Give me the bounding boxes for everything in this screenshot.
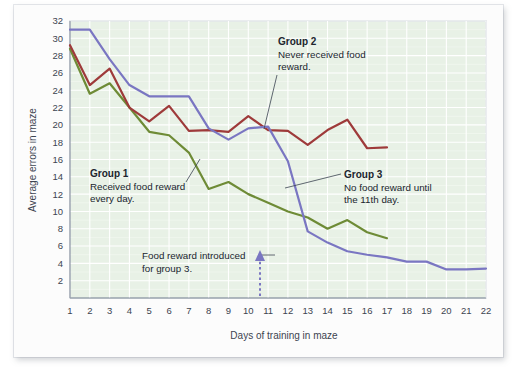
y-axis-tick-labels: 2468101214161820222426283032 <box>52 15 63 286</box>
y-tick-label: 22 <box>52 102 63 113</box>
x-axis-tick-labels: 12345678910111213141516171819202122 <box>67 305 491 316</box>
y-tick-label: 10 <box>52 206 63 217</box>
annotation-group-2-line-2: reward. <box>278 61 311 72</box>
x-axis-title: Days of training in maze <box>230 330 338 341</box>
annotation-group-2-title: Group 2 <box>278 36 317 47</box>
annotation-group-3-title: Group 3 <box>344 169 383 180</box>
x-tick-label: 22 <box>481 305 492 316</box>
y-tick-label: 24 <box>52 85 63 96</box>
y-tick-label: 28 <box>52 50 63 61</box>
y-tick-label: 16 <box>52 154 63 165</box>
chart-container: 2468101214161820222426283032 12345678910… <box>14 5 503 357</box>
y-tick-label: 30 <box>52 33 63 44</box>
y-tick-label: 8 <box>58 223 63 234</box>
y-tick-label: 18 <box>52 137 63 148</box>
y-axis-title: Average errors in maze <box>27 108 38 212</box>
x-tick-label: 2 <box>87 305 92 316</box>
x-tick-label: 1 <box>67 305 72 316</box>
y-tick-label: 14 <box>52 171 63 182</box>
x-tick-label: 19 <box>421 305 432 316</box>
x-tick-label: 20 <box>441 305 452 316</box>
y-tick-label: 12 <box>52 189 63 200</box>
y-tick-label: 20 <box>52 119 63 130</box>
annotation-group-1-line-2: every day. <box>90 193 134 204</box>
annotation-group-1-title: Group 1 <box>90 168 129 179</box>
x-tick-label: 13 <box>302 305 313 316</box>
x-tick-label: 7 <box>186 305 191 316</box>
x-tick-label: 18 <box>401 305 412 316</box>
annotation-group-2-line-1: Never received food <box>278 49 366 60</box>
x-tick-label: 11 <box>263 305 273 316</box>
annotation-group-3-line-2: the 11th day. <box>344 194 399 205</box>
x-tick-label: 10 <box>243 305 254 316</box>
y-tick-label: 2 <box>58 275 63 286</box>
x-tick-label: 4 <box>127 305 132 316</box>
x-tick-label: 21 <box>461 305 472 316</box>
annotation-group-1-line-1: Received food reward <box>90 181 185 192</box>
x-tick-label: 6 <box>166 305 171 316</box>
x-tick-label: 16 <box>362 305 373 316</box>
annotation-food-reward-line-1: Food reward introduced <box>142 250 245 261</box>
x-tick-label: 8 <box>206 305 211 316</box>
y-tick-label: 26 <box>52 67 63 78</box>
x-tick-label: 15 <box>342 305 353 316</box>
x-tick-label: 12 <box>283 305 294 316</box>
y-tick-label: 6 <box>58 240 63 251</box>
x-tick-label: 5 <box>147 305 152 316</box>
x-tick-label: 9 <box>226 305 231 316</box>
x-tick-label: 3 <box>107 305 112 316</box>
figure-card: 2468101214161820222426283032 12345678910… <box>14 5 503 357</box>
x-tick-label: 14 <box>322 305 333 316</box>
y-tick-label: 32 <box>52 15 63 26</box>
annotation-food-reward-line-2: for group 3. <box>142 263 192 274</box>
y-tick-label: 4 <box>58 258 63 269</box>
x-tick-label: 17 <box>382 305 393 316</box>
line-chart: 2468101214161820222426283032 12345678910… <box>14 5 503 357</box>
annotation-group-3-line-1: No food reward until <box>344 182 432 193</box>
